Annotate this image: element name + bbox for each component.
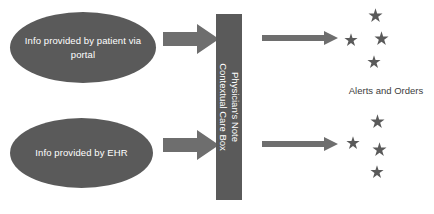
star-icon xyxy=(368,8,383,27)
star-icon xyxy=(374,31,389,50)
output-star-cluster-orders xyxy=(340,114,420,184)
star-icon xyxy=(344,33,358,51)
input-node-ehr[interactable]: Info provided by EHR xyxy=(10,118,153,188)
process-node-label: Physician's Note Contextual Care Box xyxy=(217,63,241,151)
diagram-canvas: Info provided by patient via portal Info… xyxy=(0,0,434,214)
block-arrow-right-icon xyxy=(163,24,219,54)
star-icon xyxy=(367,55,381,73)
line-arrow-right-icon xyxy=(262,136,338,152)
output-star-cluster-alerts xyxy=(340,8,420,78)
star-icon xyxy=(370,165,384,183)
output-label: Alerts and Orders xyxy=(338,85,434,96)
input-node-patient-portal[interactable]: Info provided by patient via portal xyxy=(10,12,156,83)
star-icon xyxy=(372,142,387,161)
star-icon xyxy=(346,136,360,154)
input-node-patient-portal-label: Info provided by patient via portal xyxy=(23,34,143,62)
line-arrow-right-icon xyxy=(262,30,338,46)
star-icon xyxy=(370,114,385,133)
process-node-line-1: Physician's Note xyxy=(229,63,241,151)
input-node-ehr-label: Info provided by EHR xyxy=(23,146,140,160)
process-node-line-2: Contextual Care Box xyxy=(217,63,229,151)
process-node-contextual-care-box[interactable]: Physician's Note Contextual Care Box xyxy=(216,14,242,200)
block-arrow-right-icon xyxy=(163,130,219,160)
